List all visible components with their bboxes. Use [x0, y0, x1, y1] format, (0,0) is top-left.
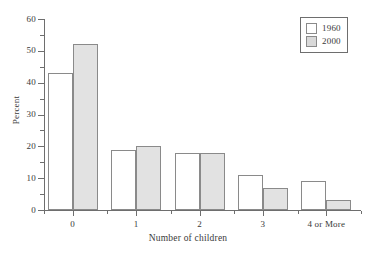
x-tick-minor: [298, 211, 299, 214]
x-tick-label: 4 or More: [307, 219, 345, 229]
y-axis-title: Percent: [11, 80, 21, 140]
y-tick-label: 60: [10, 15, 36, 24]
x-tick-minor: [171, 211, 172, 214]
x-tick-major: [200, 211, 201, 216]
bar-1960-3: [238, 175, 263, 210]
bar-2000-0: [73, 44, 98, 210]
x-tick-minor: [234, 211, 235, 214]
legend: 1960 2000: [300, 17, 348, 53]
x-tick-minor: [107, 211, 108, 214]
x-tick-minor: [44, 211, 45, 214]
y-tick-label: 20: [10, 142, 36, 151]
legend-item-2000: 2000: [306, 35, 341, 48]
x-tick-major: [326, 211, 327, 216]
x-tick-label: 3: [261, 219, 266, 229]
x-tick-major: [263, 211, 264, 216]
legend-swatch-icon-2000: [306, 36, 317, 47]
bar-1960-1: [111, 150, 136, 210]
bar-2000-4-or-More: [326, 200, 351, 210]
x-tick-label: 2: [197, 219, 202, 229]
bar-1960-0: [48, 73, 73, 210]
x-tick-label: 1: [134, 219, 139, 229]
legend-label-1960: 1960: [322, 23, 341, 34]
x-axis-title: Number of children: [0, 233, 376, 244]
bar-2000-1: [136, 146, 161, 210]
bar-2000-2: [200, 153, 225, 210]
x-tick-major: [136, 211, 137, 216]
x-tick-label: 0: [70, 219, 75, 229]
y-tick-label: 50: [10, 46, 36, 55]
x-tick-major: [73, 211, 74, 216]
y-tick-label: 0: [10, 206, 36, 215]
legend-label-2000: 2000: [322, 36, 341, 47]
y-tick-label: 10: [10, 174, 36, 183]
bar-2000-3: [263, 188, 288, 210]
x-axis-line: [44, 210, 361, 211]
x-tick-minor: [361, 211, 362, 214]
legend-item-1960: 1960: [306, 22, 341, 35]
bar-1960-2: [175, 153, 200, 210]
legend-swatch-icon-1960: [306, 23, 317, 34]
bar-chart: 0102030405060 01234 or More Number of ch…: [0, 0, 376, 254]
bar-1960-4-or-More: [301, 181, 326, 210]
